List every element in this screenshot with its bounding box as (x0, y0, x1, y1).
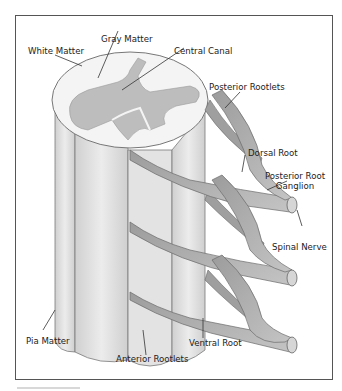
label-posterior-rootlets: Posterior Rootlets (209, 82, 285, 92)
label-posterior-root-ganglion: Posterior Root Ganglion (263, 171, 327, 191)
label-posterior-root-ganglion-line1: Posterior Root (263, 171, 327, 181)
label-gray-matter: Gray Matter (101, 34, 153, 44)
label-dorsal-root: Dorsal Root (248, 148, 298, 158)
spinal-cord-illustration (0, 0, 342, 391)
caption-placeholder-bar (17, 387, 80, 389)
label-posterior-root-ganglion-line2: Ganglion (263, 181, 327, 191)
cord-top-disk (52, 52, 208, 148)
label-anterior-rootlets: Anterior Rootlets (116, 354, 188, 364)
label-central-canal: Central Canal (174, 46, 232, 56)
label-spinal-nerve: Spinal Nerve (272, 242, 327, 252)
posterior-rootlets (205, 100, 264, 330)
label-ventral-root: Ventral Root (189, 338, 242, 348)
label-pia-matter: Pia Matter (26, 336, 70, 346)
label-white-matter: White Matter (28, 46, 84, 56)
spinal-nerve-ends (287, 197, 297, 353)
